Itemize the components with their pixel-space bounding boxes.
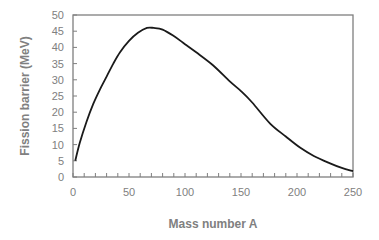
y-tick-label: 0 — [58, 171, 64, 183]
x-axis-title: Mass number A — [169, 217, 258, 231]
y-axis-title: Fission barrier (MeV) — [18, 36, 32, 155]
y-tick-label: 35 — [52, 58, 64, 70]
y-tick-label: 15 — [52, 122, 64, 134]
y-tick-label: 40 — [52, 41, 64, 53]
y-tick-label: 5 — [58, 155, 64, 167]
y-tick-label: 50 — [52, 9, 64, 21]
y-tick-label: 10 — [52, 139, 64, 151]
x-tick-label: 250 — [344, 186, 362, 198]
y-tick-label: 45 — [52, 25, 64, 37]
y-tick-label: 20 — [52, 106, 64, 118]
plot-frame — [73, 15, 353, 177]
y-tick-label: 25 — [52, 90, 64, 102]
x-tick-label: 200 — [288, 186, 306, 198]
data-line — [75, 28, 353, 172]
y-tick-label: 30 — [52, 74, 64, 86]
x-tick-label: 100 — [176, 186, 194, 198]
x-tick-label: 150 — [232, 186, 250, 198]
x-tick-label: 0 — [70, 186, 76, 198]
x-tick-label: 50 — [123, 186, 135, 198]
fission-barrier-chart: 05101520253035404550 050100150200250 Fis… — [0, 0, 379, 240]
